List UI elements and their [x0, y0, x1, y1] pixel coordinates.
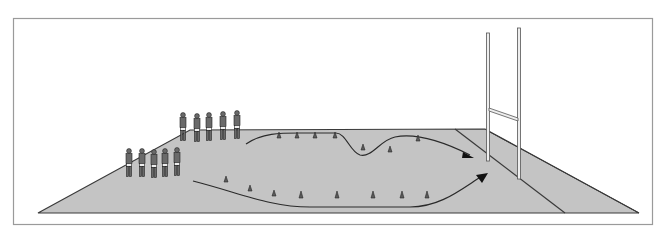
left-post: [487, 33, 490, 161]
right-post: [518, 28, 521, 179]
drill-diagram: [0, 0, 665, 234]
